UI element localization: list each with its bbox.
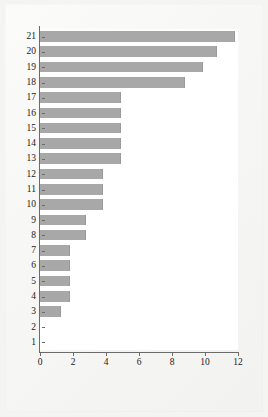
y-axis-tick-label: 8 [8,230,36,240]
bar-row [40,289,238,304]
bar-row [40,121,238,136]
y-axis-tick-label: 14 [8,138,36,148]
bar [40,62,203,73]
y-axis-tick-mark [42,190,45,191]
y-axis-tick-label: 18 [8,77,36,87]
x-axis-tick-label: 0 [28,357,52,368]
bar-row [40,304,238,319]
y-axis-tick-mark [42,205,45,206]
y-axis-tick-label: 4 [8,291,36,301]
y-axis-tick-mark [42,83,45,84]
bar-row [40,75,238,90]
bars-layer [40,29,238,350]
bar [40,123,121,134]
y-axis-tick-label: 21 [8,31,36,41]
y-axis-tick-mark [42,113,45,114]
y-axis-tick-label: 7 [8,245,36,255]
x-axis-tick-mark [106,352,107,356]
y-axis-tick-labels: 212019181716151413121110987654321 [6,29,36,350]
bar [40,31,235,42]
y-axis-tick-label: 20 [8,46,36,56]
y-axis-tick-mark [42,37,45,38]
y-axis-tick-label: 5 [8,276,36,286]
bar-row [40,136,238,151]
y-axis-tick-label: 1 [8,337,36,347]
y-axis-tick-label: 15 [8,123,36,133]
y-axis-tick-mark [42,312,45,313]
bar-row [40,90,238,105]
x-axis-tick-label: 4 [94,357,118,368]
bar [40,153,121,164]
x-axis-tick-label: 12 [226,357,250,368]
bar-row [40,228,238,243]
y-axis-tick-mark [42,128,45,129]
y-axis-tick-label: 12 [8,169,36,179]
bar-row [40,44,238,59]
y-axis-tick-mark [42,159,45,160]
y-axis-tick-label: 17 [8,92,36,102]
bar [40,215,86,226]
y-axis-tick-mark [42,281,45,282]
bar-row [40,182,238,197]
bar-row [40,212,238,227]
bar-row [40,151,238,166]
x-axis-tick-label: 10 [193,357,217,368]
x-axis-tick-mark [172,352,173,356]
y-axis-tick-mark [42,327,45,328]
bar [40,199,103,210]
x-axis-tick-label: 6 [127,357,151,368]
y-axis-tick-label: 6 [8,260,36,270]
bar [40,77,185,88]
bar [40,138,121,149]
bar-row [40,319,238,334]
x-axis-tick-label: 2 [61,357,85,368]
y-axis-tick-mark [42,52,45,53]
x-axis-tick-label: 8 [160,357,184,368]
y-axis-tick-mark [42,67,45,68]
y-axis-tick-mark [42,220,45,221]
y-axis-tick-mark [42,98,45,99]
x-axis-tick-mark [139,352,140,356]
y-axis-tick-label: 3 [8,306,36,316]
bar-row [40,60,238,75]
y-axis-tick-label: 13 [8,153,36,163]
y-axis-tick-label: 19 [8,62,36,72]
y-axis-tick-label: 2 [8,322,36,332]
y-axis-tick-label: 9 [8,215,36,225]
y-axis-tick-mark [42,342,45,343]
x-axis-tick-labels: 024681012 [0,352,268,376]
bar [40,169,103,180]
y-axis-tick-mark [42,297,45,298]
x-axis-tick-mark [238,352,239,356]
y-axis-tick-mark [42,235,45,236]
bar-row [40,105,238,120]
bar-row [40,29,238,44]
bar-chart-figure: 212019181716151413121110987654321 024681… [0,0,268,417]
bar-row [40,197,238,212]
y-axis-tick-mark [42,266,45,267]
bar [40,184,103,195]
bar-row [40,274,238,289]
y-axis-tick-mark [42,174,45,175]
bar-row [40,243,238,258]
x-axis-tick-mark [40,352,41,356]
bar [40,92,121,103]
y-axis-tick-mark [42,251,45,252]
bar-row [40,167,238,182]
screenshot-canvas: 212019181716151413121110987654321 024681… [0,0,268,417]
y-axis-tick-label: 10 [8,199,36,209]
bar [40,108,121,119]
bar-row [40,335,238,350]
x-axis-tick-mark [73,352,74,356]
bar-row [40,258,238,273]
y-axis-tick-mark [42,144,45,145]
y-axis-tick-label: 11 [8,184,36,194]
y-axis-tick-label: 16 [8,108,36,118]
bar [40,230,86,241]
x-axis-tick-mark [205,352,206,356]
bar [40,46,217,57]
